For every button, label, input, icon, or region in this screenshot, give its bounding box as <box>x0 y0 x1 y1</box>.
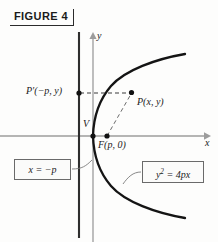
point-focus <box>104 133 109 138</box>
label-p-prime: P′(−p, y) <box>26 85 62 96</box>
label-vertex: V <box>83 118 89 129</box>
parabola-upper-branch <box>93 54 185 136</box>
label-p: P(x, y) <box>137 96 164 107</box>
point-p-prime <box>76 90 81 95</box>
segment-focus-to-p <box>107 94 131 136</box>
parabola-equation-tail: = 4px <box>164 169 190 180</box>
point-p <box>129 90 134 95</box>
directrix-equation-box: x = −p <box>14 159 71 180</box>
point-vertex <box>90 133 95 138</box>
parabola-plot <box>0 0 218 242</box>
parabola-equation-box: y2 = 4px <box>142 161 204 183</box>
x-axis-label: x <box>205 137 209 148</box>
leader-line-parabola <box>123 172 141 184</box>
figure-container: FIGURE 4 y x P′( <box>0 0 218 242</box>
label-focus: F(p, 0) <box>98 139 126 150</box>
y-axis-label: y <box>97 30 101 41</box>
leader-line-directrix <box>72 160 92 169</box>
